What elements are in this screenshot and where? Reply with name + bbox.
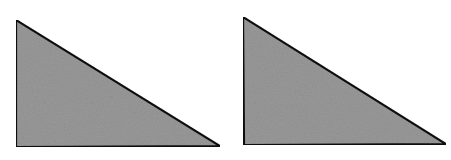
right-right-triangle <box>243 17 446 145</box>
diagram-canvas <box>0 0 451 160</box>
left-right-triangle <box>16 20 220 147</box>
